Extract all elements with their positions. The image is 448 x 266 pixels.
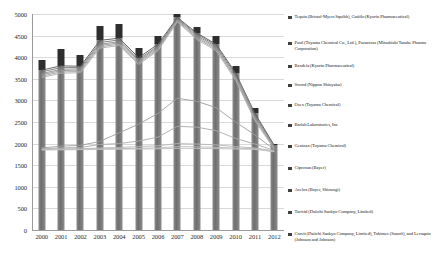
legend-item[interactable]: Geninax (Toyama Chemical) [288,143,446,149]
legend-swatch-icon [288,104,292,108]
x-axis-tick-label: 2006 [152,233,165,240]
legend-item-label: Ozex (Toyama Chemical) [295,102,341,108]
plot-area [32,14,284,230]
x-axis-tick-label: 2000 [35,233,48,240]
x-axis-tick-label: 2007 [171,233,184,240]
legend-item-label: Tequin (Bristol-Myers Squibb), Gatiflo (… [295,14,410,20]
legend-item[interactable]: Avelox (Bayer, Shionogi) [288,187,446,193]
chart-container: 0500100015002000250030003500400045005000… [0,0,448,266]
legend-item[interactable]: Tarivid (Daiichi Sankyo Company, Limited… [288,209,446,215]
y-axis-tick-label: 2000 [14,140,27,147]
legend-swatch-icon [288,167,292,171]
legend-item[interactable]: Tequin (Bristol-Myers Squibb), Gatiflo (… [288,14,446,20]
legend-swatch-icon [288,145,292,149]
legend-item[interactable]: Ciproxan (Bayer) [288,165,446,171]
legend-item[interactable]: Barlab Laboratories, Inc [288,122,446,128]
legend-swatch-icon [288,211,292,215]
x-axis-tick-label: 2003 [94,233,107,240]
x-axis-tick-label: 2011 [249,233,261,240]
legend-item-label: Ciproxan (Bayer) [295,165,326,171]
y-axis-tick-labels: 0500100015002000250030003500400045005000 [0,14,30,230]
y-axis-tick-label: 3500 [14,75,27,82]
x-axis-tick-label: 2002 [74,233,87,240]
chart-legend: Tequin (Bristol-Myers Squibb), Gatiflo (… [288,10,446,260]
legend-item-label: Geninax (Toyama Chemical) [295,143,347,149]
y-axis-tick-label: 5000 [14,11,27,18]
y-axis-tick-label: 4500 [14,32,27,39]
y-axis-tick-label: 3000 [14,97,27,104]
line-series-layer [32,14,284,230]
legend-item-label: Pasil (Toyama Chemical Co., Ltd.), Pazuc… [295,40,447,51]
y-axis-tick-label: 1500 [14,162,27,169]
x-axis-tick-label: 2005 [132,233,145,240]
legend-item[interactable]: Cravit (Daiichi Sankyo Company, Limited)… [288,231,446,242]
x-axis-tick-label: 2004 [113,233,126,240]
legend-item-label: Tarivid (Daiichi Sankyo Company, Limited… [295,209,374,215]
legend-swatch-icon [288,233,292,237]
legend-swatch-icon [288,84,292,88]
legend-item-label: Baxdela (Kyorin Pharmaceutical) [295,63,355,69]
legend-swatch-icon [288,65,292,69]
legend-swatch-icon [288,189,292,193]
legend-swatch-icon [288,42,292,46]
y-axis-tick-label: 1000 [14,183,27,190]
y-axis-tick-label: 2500 [14,119,27,126]
y-axis-tick-label: 0 [24,227,27,234]
legend-item[interactable]: Sword (Nippon Shinyaku) [288,82,446,88]
legend-item[interactable]: Ozex (Toyama Chemical) [288,102,446,108]
x-axis-tick-label: 2001 [55,233,68,240]
legend-item[interactable]: Baxdela (Kyorin Pharmaceutical) [288,63,446,69]
line-series [42,17,275,145]
y-axis-tick-label: 500 [18,205,27,212]
line-series [42,18,275,146]
legend-swatch-icon [288,124,292,128]
y-axis-tick-label: 4000 [14,54,27,61]
x-axis-tick-labels: 2000200120022003200420052006200720082009… [32,233,284,247]
legend-item-label: Cravit (Daiichi Sankyo Company, Limited)… [295,231,447,242]
legend-item-label: Avelox (Bayer, Shionogi) [295,187,340,193]
x-axis-tick-label: 2009 [210,233,223,240]
x-axis-tick-label: 2010 [229,233,242,240]
x-axis-tick-label: 2012 [268,233,281,240]
legend-swatch-icon [288,16,292,20]
legend-item[interactable]: Pasil (Toyama Chemical Co., Ltd.), Pazuc… [288,40,446,51]
legend-item-label: Sword (Nippon Shinyaku) [295,82,342,88]
line-series [42,98,275,149]
x-axis-tick-label: 2008 [190,233,203,240]
legend-item-label: Barlab Laboratories, Inc [295,122,338,128]
gridline [32,230,284,231]
